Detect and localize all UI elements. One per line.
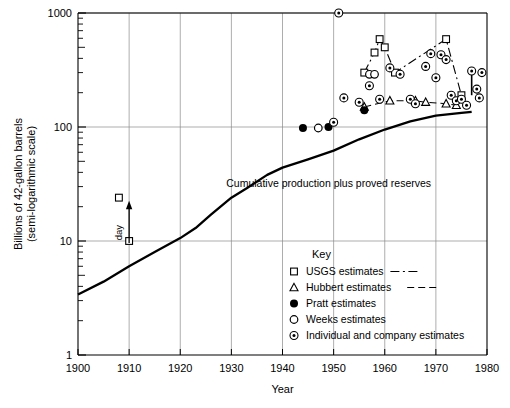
datapoint-open-triangle xyxy=(386,97,394,104)
x-tick-label: 1910 xyxy=(117,362,141,374)
x-axis-title: Year xyxy=(271,383,294,395)
x-tick-label: 1960 xyxy=(373,362,397,374)
datapoint-circle-dot xyxy=(340,94,348,102)
datapoint-open-circle xyxy=(371,70,379,78)
datapoint-open-square xyxy=(376,36,383,43)
legend-label: USGS estimates xyxy=(306,265,384,277)
datapoint-open-square xyxy=(371,49,378,56)
data-series-layer xyxy=(78,9,486,294)
datapoint-circle-dot xyxy=(422,62,430,70)
datapoint-open-square xyxy=(443,36,450,43)
legend-title: Key xyxy=(312,248,331,260)
legend-entry-0[interactable]: USGS estimates xyxy=(291,265,421,277)
datapoint-circle-dot xyxy=(475,94,483,102)
x-tick-label: 1980 xyxy=(475,362,499,374)
x-tick-label: 1950 xyxy=(321,362,345,374)
x-tick-label: 1970 xyxy=(424,362,448,374)
legend-entry-1[interactable]: Hubbert estimates xyxy=(290,281,437,293)
y-tick-label: 1000 xyxy=(48,7,72,19)
datapoint-open-square xyxy=(116,194,123,201)
datapoint-open-circle xyxy=(314,124,322,132)
legend-marker-filled-circle xyxy=(290,300,298,308)
annotation-layer: Cumulative production plus proved reserv… xyxy=(113,177,431,243)
series-line-cumulative xyxy=(78,112,472,295)
day-arrow-head xyxy=(126,201,132,209)
legend-entry-3[interactable]: Weeks estimates xyxy=(290,313,386,325)
datapoint-circle-dot xyxy=(365,82,373,90)
y-axis-title-line2: (semi-logarithmic scale) xyxy=(25,126,37,242)
legend-label: Hubbert estimates xyxy=(306,281,391,293)
chart-legend: KeyUSGS estimatesHubbert estimatesPratt … xyxy=(290,248,464,341)
series-0 xyxy=(78,112,472,295)
x-tick-label: 1920 xyxy=(168,362,192,374)
datapoint-circle-dot xyxy=(468,67,476,75)
legend-marker-open-circle xyxy=(290,316,298,324)
datapoint-circle-dot xyxy=(478,69,486,77)
legend-label: Pratt estimates xyxy=(306,297,376,309)
legend-label: Individual and company estimates xyxy=(306,329,464,341)
datapoint-circle-dot xyxy=(335,9,343,17)
legend-label: Weeks estimates xyxy=(306,313,386,325)
legend-marker-open-triangle xyxy=(290,283,298,290)
legend-marker-open-square xyxy=(291,268,298,275)
datapoint-circle-dot xyxy=(427,50,435,58)
datapoint-circle-dot xyxy=(473,85,481,93)
chart-figure: 1101001000190019101920193019401950196019… xyxy=(0,0,510,408)
datapoint-filled-circle xyxy=(360,106,368,114)
series-connector-usgs xyxy=(364,39,461,95)
series-1 xyxy=(116,36,465,245)
y-tick-label: 1 xyxy=(66,349,72,361)
datapoint-circle-dot xyxy=(411,100,419,108)
y-axis-title-line1: Billions of 42-gallon barrels xyxy=(12,117,24,250)
curve-annotation: Cumulative production plus proved reserv… xyxy=(226,177,431,189)
day-annotation: day xyxy=(113,225,124,241)
series-5 xyxy=(330,9,486,126)
datapoint-circle-dot xyxy=(386,64,394,72)
datapoint-circle-dot xyxy=(442,56,450,64)
oil-reserves-estimates-chart: 1101001000190019101920193019401950196019… xyxy=(0,0,510,408)
datapoint-circle-dot xyxy=(463,101,471,109)
datapoint-circle-dot xyxy=(330,118,338,126)
axis-ticks: 1101001000190019101920193019401950196019… xyxy=(48,7,500,374)
datapoint-filled-circle xyxy=(299,124,307,132)
x-tick-label: 1900 xyxy=(66,362,90,374)
legend-entry-4[interactable]: Individual and company estimates xyxy=(290,329,464,341)
y-tick-label: 10 xyxy=(60,235,72,247)
x-tick-label: 1930 xyxy=(219,362,243,374)
datapoint-open-square xyxy=(381,44,388,51)
y-tick-label: 100 xyxy=(54,121,72,133)
datapoint-circle-dot xyxy=(376,95,384,103)
datapoint-circle-dot xyxy=(396,70,404,78)
x-tick-label: 1940 xyxy=(270,362,294,374)
legend-marker-circle-dot xyxy=(290,332,298,340)
datapoint-circle-dot xyxy=(432,74,440,82)
axis-labels-layer: YearBillions of 42-gallon barrels(semi-l… xyxy=(12,117,294,395)
legend-entry-2[interactable]: Pratt estimates xyxy=(290,297,376,309)
datapoint-circle-dot xyxy=(355,98,363,106)
